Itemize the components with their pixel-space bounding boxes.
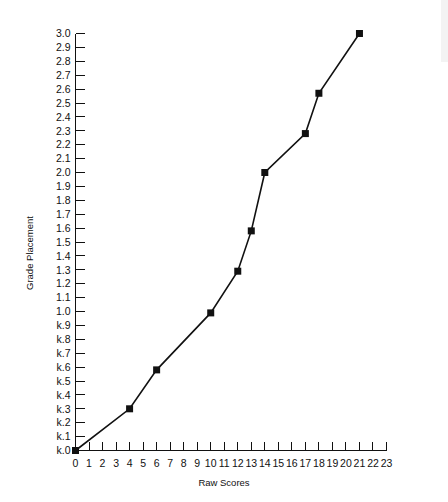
y-tick-label: 2.1 — [56, 152, 71, 164]
data-point-marker-k.3 — [126, 405, 133, 412]
y-tick-label: 3.0 — [56, 27, 71, 39]
y-axis-title: Grade Placement — [24, 216, 35, 290]
y-tick-label: 2.4 — [56, 111, 71, 123]
x-tick-label: 4 — [127, 457, 133, 469]
y-tick-label: 1.8 — [56, 194, 71, 206]
x-tick-label: 11 — [219, 457, 230, 469]
x-tick-label: 3 — [113, 457, 119, 469]
x-tick-label: 2 — [100, 457, 106, 469]
y-tick-label: k.2 — [56, 416, 70, 428]
y-axis-tick-labels: k.0k.1k.2k.3k.4k.5k.6k.7k.8k.91.01.11.21… — [56, 27, 71, 456]
data-point-marker-2.0 — [261, 169, 268, 176]
y-tick-label: k.8 — [56, 333, 70, 345]
y-tick-label: 2.6 — [56, 83, 71, 95]
data-point-marker-1.3 — [234, 268, 241, 275]
y-tick-label: k.6 — [56, 361, 70, 373]
y-tick-label: 2.2 — [56, 138, 71, 150]
y-tick-label: k.3 — [56, 403, 70, 415]
chart-container: k.0k.1k.2k.3k.4k.5k.6k.7k.8k.91.01.11.21… — [0, 0, 448, 502]
x-tick-label: 19 — [327, 457, 339, 469]
y-tick-label: k.9 — [56, 319, 70, 331]
data-point-marker-1.6 — [248, 227, 255, 234]
x-tick-label: 16 — [286, 457, 298, 469]
data-point-markers — [72, 30, 363, 454]
x-tick-label: 5 — [140, 457, 146, 469]
y-tick-label: 1.0 — [56, 305, 71, 317]
x-tick-label: 0 — [73, 457, 79, 469]
x-axis-tick-labels: 01234567891011121314151617181920212223 — [73, 457, 393, 469]
x-tick-label: 12 — [232, 457, 244, 469]
data-point-marker-k.0 — [72, 447, 79, 454]
x-axis-title: Raw Scores — [198, 477, 249, 488]
y-tick-label: k.0 — [56, 444, 70, 456]
y-tick-label: 2.0 — [56, 166, 71, 178]
x-tick-label: 8 — [181, 457, 187, 469]
x-tick-label: 9 — [194, 457, 200, 469]
y-tick-label: k.1 — [56, 430, 70, 442]
y-tick-label: 2.8 — [56, 55, 71, 67]
y-tick-label: 1.3 — [56, 264, 71, 276]
scan-edge-artifact — [441, 0, 448, 62]
y-tick-label: 2.7 — [56, 69, 71, 81]
y-tick-label: 1.4 — [56, 250, 71, 262]
data-point-marker-2.3 — [302, 130, 309, 137]
y-tick-label: 2.3 — [56, 125, 71, 137]
y-tick-label: 1.1 — [56, 291, 71, 303]
x-tick-label: 21 — [354, 457, 366, 469]
y-tick-label: 1.6 — [56, 222, 71, 234]
x-tick-label: 13 — [245, 457, 257, 469]
y-tick-label: 1.7 — [56, 208, 71, 220]
x-axis-ticks — [76, 442, 387, 451]
x-tick-label: 7 — [167, 457, 173, 469]
x-tick-label: 10 — [205, 457, 217, 469]
data-point-marker-1.0 — [207, 309, 214, 316]
y-tick-label: 2.5 — [56, 97, 71, 109]
data-point-marker-2.6 — [315, 90, 322, 97]
x-tick-label: 1 — [86, 457, 92, 469]
x-tick-label: 6 — [154, 457, 160, 469]
x-tick-label: 23 — [381, 457, 393, 469]
x-tick-label: 22 — [367, 457, 379, 469]
y-axis-ticks — [76, 34, 85, 451]
y-tick-label: k.7 — [56, 347, 70, 359]
x-tick-label: 20 — [340, 457, 352, 469]
grade-placement-line-chart: k.0k.1k.2k.3k.4k.5k.6k.7k.8k.91.01.11.21… — [0, 0, 448, 502]
y-tick-label: 1.5 — [56, 236, 71, 248]
y-tick-label: 1.2 — [56, 277, 71, 289]
y-tick-label: 1.9 — [56, 180, 71, 192]
x-tick-label: 18 — [313, 457, 325, 469]
y-tick-label: k.5 — [56, 375, 70, 387]
x-tick-label: 17 — [300, 457, 312, 469]
data-point-marker-k.6 — [153, 366, 160, 373]
y-tick-label: k.4 — [56, 389, 70, 401]
x-tick-label: 15 — [272, 457, 284, 469]
y-tick-label: 2.9 — [56, 41, 71, 53]
x-tick-label: 14 — [259, 457, 271, 469]
data-point-marker-3.0 — [356, 30, 363, 37]
